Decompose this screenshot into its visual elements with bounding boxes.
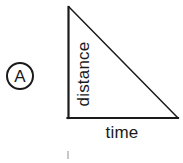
y-axis-label: distance [74, 26, 94, 122]
x-axis-label: time [68, 123, 176, 143]
figure-option-a: A distance time [0, 0, 183, 163]
y-axis-label-container: distance [40, 34, 62, 130]
cropped-edge-artifact [67, 151, 69, 159]
